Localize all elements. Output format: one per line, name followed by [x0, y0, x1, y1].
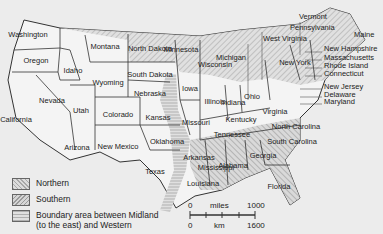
state-callout-label: Maryland: [324, 98, 355, 106]
state-callout-label: Pennsylvania: [290, 24, 335, 32]
scale-km-start: 0: [188, 221, 192, 230]
dialect-map: WashingtonOregonCaliforniaIdahoNevadaUta…: [0, 0, 383, 234]
state-label: Michigan: [216, 54, 246, 62]
state-callout-label: Maine: [354, 31, 374, 39]
state-label: Utah: [73, 107, 89, 115]
state-label: South Carolina: [267, 138, 317, 146]
southern-swatch: [12, 194, 30, 206]
scale-km-label: km: [214, 221, 225, 230]
state-label: North Carolina: [272, 123, 320, 131]
scale-miles-end: 1000: [247, 201, 265, 210]
state-label: Alabama: [218, 162, 248, 170]
state-label: Tennessee: [214, 131, 250, 139]
state-label: Arkansas: [183, 154, 214, 162]
state-label: Kentucky: [226, 116, 257, 124]
legend-northern: Northern: [12, 178, 69, 190]
state-label: New York: [279, 59, 311, 67]
state-label: Ohio: [244, 93, 260, 101]
state-label: Missouri: [182, 119, 210, 127]
state-label: Nevada: [39, 97, 65, 105]
state-callout-label: West Virginia: [263, 35, 307, 43]
legend-label-line2: (to the east) and Western: [36, 220, 158, 230]
scale-miles-start: 0: [188, 201, 192, 210]
boundary-swatch: [12, 210, 30, 222]
legend-label: Northern: [36, 178, 69, 188]
state-label: Wyoming: [92, 79, 123, 87]
state-label: Minnesota: [164, 46, 199, 54]
state-callout-label: Connecticut: [324, 70, 364, 78]
state-label: Florida: [268, 183, 291, 191]
state-label: Kansas: [145, 114, 170, 122]
scale-km-end: 1600: [247, 221, 265, 230]
state-label: Oregon: [23, 57, 48, 65]
state-label: Texas: [145, 168, 165, 176]
state-label: Georgia: [250, 152, 277, 160]
legend-boundary: Boundary area between Midland (to the ea…: [12, 210, 158, 230]
state-label: Indiana: [221, 99, 246, 107]
state-label: California: [0, 116, 32, 124]
state-label: Virginia: [263, 108, 288, 116]
state-label: Louisiana: [187, 180, 219, 188]
state-label: Nebraska: [134, 90, 166, 98]
state-label: Oklahoma: [150, 138, 184, 146]
state-label: South Dakota: [127, 71, 172, 79]
state-label: Iowa: [182, 85, 198, 93]
state-label: Montana: [90, 43, 119, 51]
northern-swatch: [12, 178, 30, 190]
scale-bar: [190, 211, 255, 219]
state-callout-label: New Hampshire: [324, 45, 377, 53]
legend-label: Southern: [36, 194, 71, 204]
state-label: Idaho: [64, 67, 83, 75]
state-label: Washington: [8, 31, 47, 39]
state-callout-label: Vermont: [299, 13, 327, 21]
state-label: New Mexico: [98, 143, 139, 151]
legend-label: Boundary area between Midland: [36, 210, 158, 220]
scale-miles-label: miles: [210, 201, 229, 210]
legend-southern: Southern: [12, 194, 71, 206]
state-label: Colorado: [103, 111, 133, 119]
state-label: Arizona: [64, 144, 89, 152]
state-label: Wisconsin: [198, 61, 232, 69]
